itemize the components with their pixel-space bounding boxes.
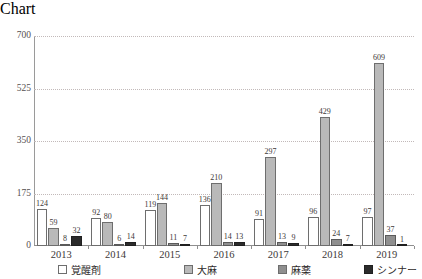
bar	[397, 244, 408, 246]
x-axis-tick	[143, 246, 144, 249]
legend-swatch-icon	[278, 265, 287, 274]
legend-item-麻薬[interactable]: 麻薬	[278, 262, 311, 277]
x-tick-label-2016: 2016	[214, 249, 235, 260]
x-tick-label-2015: 2015	[159, 249, 180, 260]
bar	[374, 63, 385, 246]
bar-chart: 0175350525700 12459832928061411914411713…	[0, 18, 422, 279]
chart-legend: 覚醒剤大麻麻薬シンナー	[34, 262, 414, 278]
plot-area: 1245983292806141191441171362101413912971…	[34, 36, 414, 246]
legend-label: 覚醒剤	[71, 262, 101, 277]
y-axis-labels: 0175350525700	[0, 36, 31, 246]
legend-item-シンナー[interactable]: シンナー	[364, 262, 417, 277]
x-axis-tick	[197, 246, 198, 249]
legend-swatch-icon	[364, 265, 373, 274]
legend-item-大麻[interactable]: 大麻	[184, 262, 217, 277]
legend-label: 大麻	[197, 262, 217, 277]
x-axis-tick	[305, 246, 306, 249]
legend-item-覚醒剤[interactable]: 覚醒剤	[58, 262, 101, 277]
x-axis-tick	[414, 246, 415, 249]
legend-swatch-icon	[184, 265, 193, 274]
legend-swatch-icon	[58, 265, 67, 274]
legend-label: 麻薬	[291, 262, 311, 277]
y-tick-label: 525	[1, 83, 31, 93]
bar	[385, 235, 396, 246]
x-tick-label-2017: 2017	[268, 249, 289, 260]
x-tick-label-2018: 2018	[322, 249, 343, 260]
bar-value-label: 97	[364, 207, 372, 216]
x-axis-tick	[360, 246, 361, 249]
x-tick-label-2019: 2019	[376, 249, 397, 260]
bar-group-2019: 97609371	[34, 36, 414, 246]
x-axis-tick	[251, 246, 252, 249]
bar-value-label: 37	[387, 225, 395, 234]
x-tick-label-2013: 2013	[51, 249, 72, 260]
y-tick-label: 350	[1, 135, 31, 145]
x-axis-tick	[88, 246, 89, 249]
y-tick-label: 175	[1, 188, 31, 198]
y-tick-label: 700	[1, 30, 31, 40]
bar-value-label: 609	[373, 53, 385, 62]
legend-label: シンナー	[377, 262, 417, 277]
x-tick-label-2014: 2014	[105, 249, 126, 260]
y-tick-label: 0	[1, 240, 31, 250]
bar	[362, 217, 373, 246]
bar-value-label: 1	[400, 235, 404, 244]
